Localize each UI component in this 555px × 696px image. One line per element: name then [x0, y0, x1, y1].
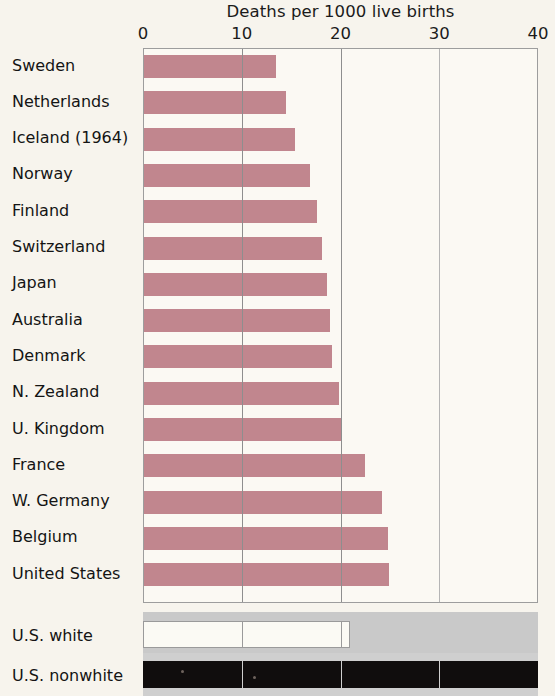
- bar-w-germany: [144, 491, 382, 514]
- category-label-united-states: United States: [12, 566, 120, 582]
- bar-iceland-1964: [144, 128, 295, 151]
- x-tick-label-30: 30: [429, 24, 450, 43]
- bar-united-states: [144, 563, 389, 586]
- paper-speck: [181, 670, 184, 673]
- bar-belgium: [144, 527, 388, 550]
- x-tick-label-20: 20: [330, 24, 351, 43]
- category-label-japan: Japan: [12, 275, 57, 291]
- gridline-20: [341, 49, 342, 602]
- x-tick-label-10: 10: [231, 24, 252, 43]
- bar-denmark: [144, 345, 332, 368]
- category-label-belgium: Belgium: [12, 529, 78, 545]
- category-label-finland: Finland: [12, 203, 69, 219]
- bottom-divider-20: [341, 621, 342, 648]
- x-tick-label-0: 0: [138, 24, 149, 43]
- bar-netherlands: [144, 91, 286, 114]
- gridline-30: [439, 49, 440, 602]
- bottom-divider-30: [439, 661, 440, 688]
- category-label-switzerland: Switzerland: [12, 239, 105, 255]
- bar-france: [144, 454, 365, 477]
- bottom-label-us-nonwhite: U.S. nonwhite: [12, 668, 123, 684]
- x-tick-label-40: 40: [528, 24, 549, 43]
- category-label-u-kingdom: U. Kingdom: [12, 421, 105, 437]
- gridline-10: [242, 49, 243, 602]
- category-labels: SwedenNetherlandsIceland (1964)NorwayFin…: [0, 48, 140, 603]
- bar-sweden: [144, 55, 276, 78]
- bottom-divider-10: [242, 661, 243, 688]
- bar-us-white: [143, 621, 350, 648]
- bar-australia: [144, 309, 330, 332]
- category-label-sweden: Sweden: [12, 58, 75, 74]
- bar-norway: [144, 164, 310, 187]
- bar-finland: [144, 200, 317, 223]
- bottom-divider-10: [242, 621, 243, 648]
- bottom-divider-20: [341, 661, 342, 688]
- bar-japan: [144, 273, 327, 296]
- plot-area: [143, 48, 538, 603]
- bottom-label-us-white: U.S. white: [12, 628, 93, 644]
- category-label-norway: Norway: [12, 166, 73, 182]
- category-label-iceland-1964: Iceland (1964): [12, 130, 128, 146]
- category-label-w-germany: W. Germany: [12, 493, 110, 509]
- chart-title: Deaths per 1000 live births: [143, 2, 538, 21]
- category-label-australia: Australia: [12, 312, 83, 328]
- bar-switzerland: [144, 237, 322, 260]
- paper-speck: [253, 676, 256, 679]
- infant-mortality-bar-chart: Deaths per 1000 live births 010203040 Sw…: [0, 0, 555, 696]
- category-label-france: France: [12, 457, 65, 473]
- category-label-denmark: Denmark: [12, 348, 86, 364]
- category-label-netherlands: Netherlands: [12, 94, 110, 110]
- us-breakdown-panel: U.S. white U.S. nonwhite: [0, 612, 555, 696]
- category-label-n-zealand: N. Zealand: [12, 384, 99, 400]
- x-axis-tick-labels: 010203040: [0, 24, 555, 46]
